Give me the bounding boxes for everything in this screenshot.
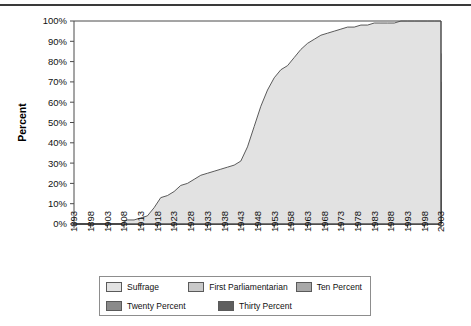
legend-label: Twenty Percent — [127, 301, 186, 311]
y-tick-label: 70% — [48, 76, 68, 87]
x-tick-label: 2003 — [435, 211, 446, 232]
x-tick-label: 1958 — [285, 211, 296, 232]
stacked-area-chart: 0%10%20%30%40%50%60%70%80%90%100%1893189… — [0, 8, 471, 288]
x-tick-label: 1968 — [319, 211, 330, 232]
x-tick-label: 1893 — [68, 211, 79, 232]
y-tick-label: 30% — [48, 158, 68, 169]
x-tick-label: 1978 — [352, 211, 363, 232]
legend-label: First Parliamentarian — [209, 282, 287, 292]
x-tick-label: 1918 — [152, 211, 163, 232]
y-tick-label: 60% — [48, 97, 68, 108]
legend-label: Ten Percent — [317, 282, 362, 292]
x-tick-label: 1933 — [202, 211, 213, 232]
x-tick-label: 1973 — [335, 211, 346, 232]
y-tick-label: 0% — [53, 218, 67, 229]
legend-item-thirty-percent[interactable]: Thirty Percent — [218, 301, 336, 311]
legend-row: Twenty PercentThirty Percent — [100, 296, 370, 315]
y-tick-label: 90% — [48, 36, 68, 47]
x-tick-label: 1908 — [118, 211, 129, 232]
x-tick-label: 1993 — [402, 211, 413, 232]
y-tick-label: 10% — [48, 198, 68, 209]
legend-item-twenty-percent[interactable]: Twenty Percent — [106, 301, 210, 311]
legend-item-suffrage[interactable]: Suffrage — [106, 282, 180, 292]
x-tick-label: 1938 — [219, 211, 230, 232]
y-tick-label: 20% — [48, 178, 68, 189]
legend-item-ten-percent[interactable]: Ten Percent — [296, 282, 362, 292]
x-tick-label: 1928 — [185, 211, 196, 232]
x-tick-label: 1943 — [235, 211, 246, 232]
x-tick-label: 1948 — [252, 211, 263, 232]
x-tick-label: 1953 — [269, 211, 280, 232]
top-divider — [0, 4, 471, 6]
legend-label: Thirty Percent — [239, 301, 292, 311]
y-axis-title: Percent — [16, 103, 28, 142]
chart-legend: SuffrageFirst ParliamentarianTen Percent… — [99, 276, 371, 316]
x-tick-label: 1913 — [135, 211, 146, 232]
legend-swatch-icon — [188, 282, 204, 292]
legend-swatch-icon — [106, 282, 122, 292]
legend-item-first-parliamentarian[interactable]: First Parliamentarian — [188, 282, 287, 292]
legend-row: SuffrageFirst ParliamentarianTen Percent — [100, 277, 370, 296]
y-tick-label: 50% — [48, 117, 68, 128]
y-tick-label: 40% — [48, 137, 68, 148]
x-tick-label: 1963 — [302, 211, 313, 232]
y-tick-label: 80% — [48, 56, 68, 67]
x-tick-label: 1898 — [85, 211, 96, 232]
x-tick-label: 1988 — [385, 211, 396, 232]
legend-label: Suffrage — [127, 282, 159, 292]
legend-swatch-icon — [106, 301, 122, 311]
y-tick-label: 100% — [43, 15, 68, 26]
legend-swatch-icon — [296, 282, 312, 292]
x-tick-label: 1998 — [419, 211, 430, 232]
x-tick-label: 1923 — [168, 211, 179, 232]
legend-swatch-icon — [218, 301, 234, 311]
x-tick-label: 1983 — [369, 211, 380, 232]
x-tick-label: 1903 — [102, 211, 113, 232]
